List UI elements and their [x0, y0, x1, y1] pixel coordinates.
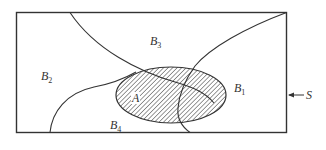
- label-sample-space-s: S: [306, 89, 312, 101]
- label-b1: B1: [234, 82, 245, 97]
- diagram-canvas: B3 B2 B1 B4 A S: [0, 0, 326, 150]
- label-b3: B3: [150, 35, 161, 50]
- label-b4: B4: [110, 119, 121, 134]
- s-arrow-head-icon: [288, 93, 294, 98]
- label-b2: B2: [41, 70, 52, 85]
- label-event-a: A: [131, 92, 140, 104]
